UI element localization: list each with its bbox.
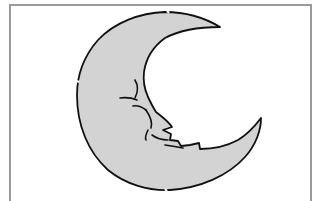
moon-body <box>77 12 261 190</box>
crescent-moon-illustration <box>0 0 317 201</box>
